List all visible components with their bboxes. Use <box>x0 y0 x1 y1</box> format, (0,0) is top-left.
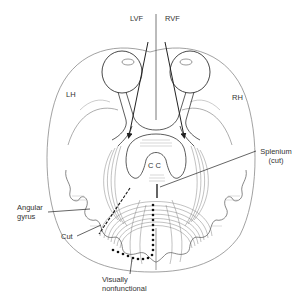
rvf-label: RVF <box>165 15 180 23</box>
splenium-label-line2: (cut) <box>255 157 297 165</box>
splenium-label-line1: Splenium <box>255 148 297 156</box>
brain-visual-pathway-diagram: LVF RVF LH RH C C Splenium (cut) Angular… <box>0 0 299 295</box>
brain-outline <box>47 48 255 272</box>
left-hemisphere-label: LH <box>66 91 76 99</box>
cut-label: Cut <box>61 233 73 241</box>
angular-gyrus-label-line2: gyrus <box>17 213 35 221</box>
lvf-label: LVF <box>130 15 143 23</box>
corpus-callosum-label: C C <box>148 162 161 170</box>
right-hemisphere-label: RH <box>232 94 243 102</box>
visually-nonfunctional-label-line1: Visually <box>102 276 128 284</box>
angular-gyrus-label-line1: Angular <box>17 204 43 212</box>
visually-nonfunctional-label-line2: nonfunctional <box>102 285 147 293</box>
